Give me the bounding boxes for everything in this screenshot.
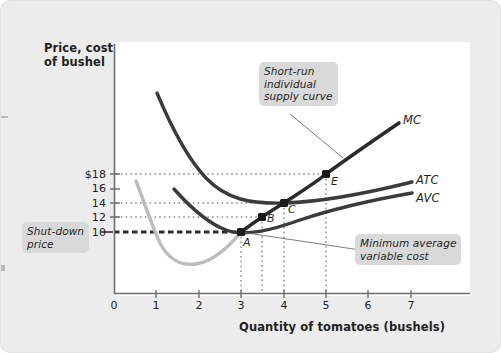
curve-label-avc: AVC bbox=[416, 191, 440, 205]
xtick-label-4: 4 bbox=[274, 299, 294, 312]
point-marker-a bbox=[237, 228, 245, 236]
point-marker-c bbox=[280, 199, 288, 207]
curve-label-mc: MC bbox=[403, 113, 421, 127]
figure-page: Price, cost of bushel Quantity of tomato… bbox=[0, 0, 501, 353]
point-label-c: C bbox=[288, 203, 296, 216]
curve-label-atc: ATC bbox=[416, 173, 439, 187]
xtick-label-3: 3 bbox=[231, 299, 251, 312]
callout-short-run-supply-curve: Short-run individual supply curve bbox=[259, 62, 338, 106]
xtick-label-7: 7 bbox=[401, 299, 421, 312]
callout-shut-down-price: Shut-down price bbox=[22, 222, 89, 253]
y-axis-title: Price, cost of bushel bbox=[44, 42, 113, 69]
x-axis-title: Quantity of tomatoes (bushels) bbox=[239, 321, 445, 335]
ytick-label-14: 14 bbox=[76, 197, 106, 210]
point-label-e: E bbox=[331, 175, 338, 188]
xtick-label-1: 1 bbox=[146, 299, 166, 312]
point-label-b: B bbox=[267, 212, 275, 225]
leader-min-avc bbox=[241, 232, 360, 250]
xtick-label-2: 2 bbox=[189, 299, 209, 312]
leader-supply-curve bbox=[290, 114, 343, 158]
point-label-a: A bbox=[243, 236, 251, 249]
atc-curve bbox=[157, 93, 412, 203]
ytick-label-16: 16 bbox=[76, 182, 106, 195]
point-marker-e bbox=[322, 170, 330, 178]
callout-minimum-average-variable-cost: Minimum average variable cost bbox=[355, 234, 461, 265]
xtick-label-5: 5 bbox=[316, 299, 336, 312]
ytick-label-18: $18 bbox=[76, 168, 106, 181]
xtick-label-6: 6 bbox=[358, 299, 378, 312]
point-marker-b bbox=[258, 213, 266, 221]
xtick-label-0: 0 bbox=[104, 299, 124, 312]
